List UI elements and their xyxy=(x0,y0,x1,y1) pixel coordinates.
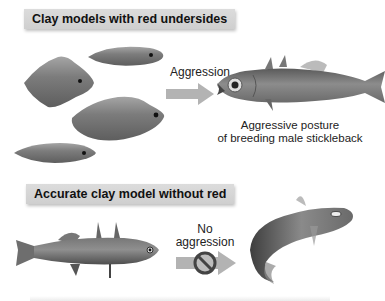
clay-model-slim-bottom xyxy=(14,143,96,163)
figure-caption-cutoff xyxy=(30,296,330,301)
clay-models-red-header: Clay models with red undersides xyxy=(24,9,235,29)
clay-model-diamond xyxy=(24,57,94,108)
clay-model-slim-top xyxy=(88,47,163,66)
aggressive-posture-caption-2: of breeding male stickleback xyxy=(210,132,370,145)
arrow-right-icon xyxy=(166,82,216,106)
aggression-no-label: aggression xyxy=(175,236,235,249)
clay-model-large xyxy=(72,97,164,141)
non-aggressive-curled-fish xyxy=(244,190,385,285)
accurate-clay-model-fish xyxy=(14,222,160,280)
aggressive-posture-caption-1: Aggressive posture xyxy=(225,119,355,132)
clay-models xyxy=(0,35,170,175)
no-symbol-icon xyxy=(192,250,218,276)
accurate-clay-model-header: Accurate clay model without red xyxy=(26,184,234,204)
aggressive-male-stickleback xyxy=(215,55,385,115)
